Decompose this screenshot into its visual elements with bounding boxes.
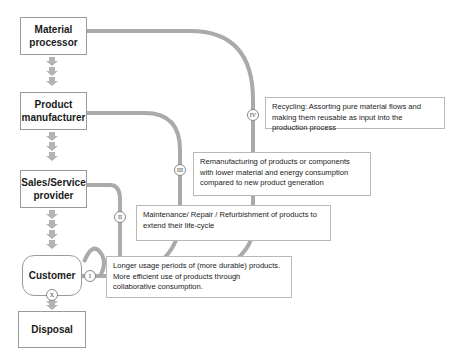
badge-loop-4: IV	[247, 109, 259, 121]
node-sales-service-provider: Sales/Service provider	[20, 170, 87, 208]
node-label: Product manufacturer	[21, 98, 86, 124]
node-material-processor: Material processor	[20, 17, 87, 55]
node-label: Disposal	[31, 323, 73, 336]
node-label: Customer	[29, 269, 76, 282]
note-loop-3: Remanufacturing of products or component…	[193, 152, 371, 196]
badge-loop-1: I	[84, 270, 96, 282]
note-loop-1: Longer usage periods of (more durable) p…	[106, 256, 292, 298]
node-label: Sales/Service provider	[21, 176, 86, 202]
note-loop-2: Maintenance/ Repair / Refurbishment of p…	[136, 205, 331, 241]
badge-loop-3: III	[174, 164, 186, 176]
note-loop-4: Recycling: Assorting pure material flows…	[265, 97, 445, 129]
node-product-manufacturer: Product manufacturer	[20, 92, 87, 130]
badge-loop-2: II	[114, 211, 126, 223]
node-label: Material processor	[21, 23, 86, 49]
node-disposal: Disposal	[18, 311, 86, 348]
badge-disposal: X	[46, 289, 58, 301]
